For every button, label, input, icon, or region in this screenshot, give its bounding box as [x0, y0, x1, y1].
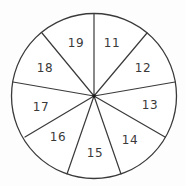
section-label-13: 13	[142, 98, 158, 112]
spinner-diagram: 11 12 13 14 15 16 17 18 19	[0, 0, 186, 186]
section-label-15: 15	[87, 146, 103, 160]
section-label-17: 17	[33, 100, 49, 114]
spinner-svg: 11 12 13 14 15 16 17 18 19	[0, 0, 186, 186]
spinner-hub	[92, 94, 96, 98]
section-label-18: 18	[37, 61, 53, 75]
section-label-14: 14	[122, 133, 138, 147]
section-label-19: 19	[68, 36, 84, 50]
section-label-12: 12	[135, 61, 151, 75]
section-label-16: 16	[50, 130, 66, 144]
section-label-11: 11	[104, 36, 120, 50]
